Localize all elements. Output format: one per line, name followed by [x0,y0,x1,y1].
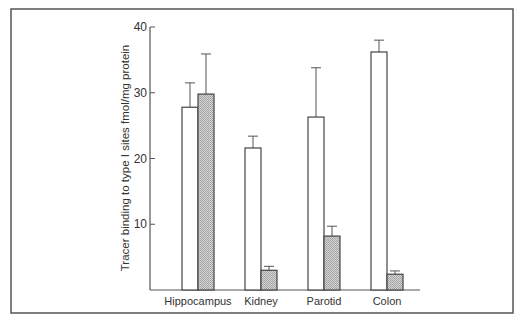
y-tick-label: 20 [134,152,148,166]
bar-hatched [387,274,403,290]
category-label: Hippocampus [164,295,232,307]
bar-hatched [261,270,277,290]
bar-open [371,52,387,290]
y-tick-label: 40 [134,20,148,34]
bar-open [182,107,198,290]
bars [182,40,403,290]
category-label: Colon [373,295,402,307]
category-label: Parotid [307,295,342,307]
y-tick-label: 30 [134,86,148,100]
y-axis-title: Tracer binding to type I sites fmol/mg p… [119,45,131,271]
chart-frame [11,9,513,313]
bar-hatched [324,236,340,290]
bar-hatched [198,94,214,290]
bar-open [245,148,261,290]
y-tick-label: 10 [134,217,148,231]
bar-chart: 10203040Tracer binding to type I sites f… [0,0,521,323]
category-label: Kidney [244,295,278,307]
bar-open [308,117,324,290]
